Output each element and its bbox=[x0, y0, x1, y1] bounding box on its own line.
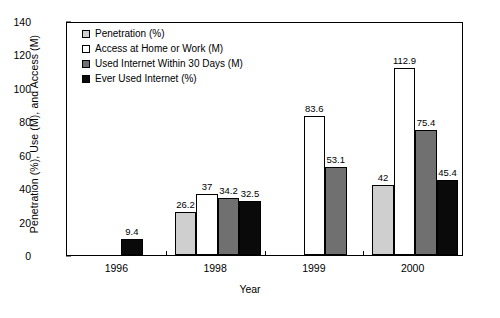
y-axis-tick-100: 100 bbox=[0, 83, 31, 95]
x-axis-tick-1999: 1999 bbox=[302, 262, 325, 274]
y-axis-tick-120: 120 bbox=[0, 49, 31, 61]
legend-item-3: Ever Used Internet (%) bbox=[82, 72, 243, 86]
bar-value-label-2000-series-0: 42 bbox=[378, 172, 389, 183]
legend-swatch-icon-3 bbox=[82, 75, 90, 83]
legend-swatch-icon-2 bbox=[82, 60, 90, 68]
bar-value-label-1998-series-1: 37 bbox=[202, 181, 213, 192]
legend-label-1: Access at Home or Work (M) bbox=[95, 43, 223, 54]
y-axis-tick-140: 140 bbox=[0, 16, 31, 28]
bar-1998-series-2 bbox=[218, 198, 240, 255]
bar-2000-series-3 bbox=[437, 180, 459, 255]
bar-1996-series-3 bbox=[121, 239, 143, 255]
bar-value-label-1999-series-2: 53.1 bbox=[327, 154, 346, 165]
bar-value-label-1996-series-3: 9.4 bbox=[125, 226, 138, 237]
bar-value-label-1998-series-0: 26.2 bbox=[176, 199, 195, 210]
y-axis-tick-60: 60 bbox=[0, 150, 31, 162]
legend-item-1: Access at Home or Work (M) bbox=[82, 42, 243, 56]
x-axis-tick-1996: 1996 bbox=[105, 262, 128, 274]
bar-group-1999: 83.653.1 bbox=[265, 23, 364, 255]
bar-value-label-2000-series-1: 112.9 bbox=[393, 55, 416, 66]
legend-swatch-icon-1 bbox=[82, 45, 90, 53]
chart-legend: Penetration (%)Access at Home or Work (M… bbox=[82, 27, 243, 87]
bar-value-label-1999-series-1: 83.6 bbox=[305, 103, 324, 114]
y-axis-tick-0: 0 bbox=[0, 250, 31, 262]
bar-value-label-2000-series-2: 75.4 bbox=[417, 117, 436, 128]
bar-2000-series-1 bbox=[394, 68, 416, 255]
legend-swatch-icon-0 bbox=[82, 30, 90, 38]
bar-1999-series-1 bbox=[304, 116, 326, 255]
bar-2000-series-0 bbox=[372, 185, 394, 255]
bar-value-label-1998-series-2: 34.2 bbox=[219, 185, 238, 196]
bar-1998-series-1 bbox=[196, 194, 218, 255]
x-axis-title: Year bbox=[0, 283, 500, 295]
y-axis-tick-40: 40 bbox=[0, 183, 31, 195]
x-axis-tick-1998: 1998 bbox=[203, 262, 226, 274]
x-axis-tick-2000: 2000 bbox=[401, 262, 424, 274]
bar-group-2000: 42112.975.445.4 bbox=[363, 23, 462, 255]
legend-item-2: Used Internet Within 30 Days (M) bbox=[82, 57, 243, 71]
bar-value-label-2000-series-3: 45.4 bbox=[438, 167, 457, 178]
bar-1999-series-2 bbox=[325, 167, 347, 255]
bar-1998-series-3 bbox=[239, 201, 261, 255]
legend-label-2: Used Internet Within 30 Days (M) bbox=[95, 58, 243, 69]
bar-1998-series-0 bbox=[175, 212, 197, 255]
legend-label-0: Penetration (%) bbox=[95, 28, 164, 39]
y-axis-tick-80: 80 bbox=[0, 116, 31, 128]
legend-item-0: Penetration (%) bbox=[82, 27, 243, 41]
bar-2000-series-2 bbox=[415, 130, 437, 255]
y-axis-tick-20: 20 bbox=[0, 217, 31, 229]
legend-label-3: Ever Used Internet (%) bbox=[95, 73, 197, 84]
bar-value-label-1998-series-3: 32.5 bbox=[241, 188, 260, 199]
bar-chart: Penetration (%), Use (M), and Access (M)… bbox=[0, 0, 500, 318]
